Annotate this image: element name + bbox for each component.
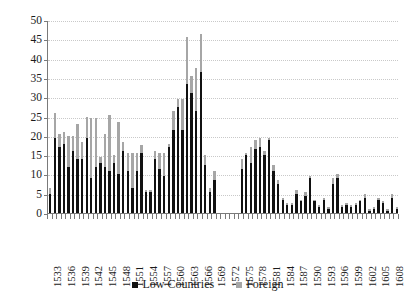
- x-tick-mark: [211, 214, 212, 219]
- x-tick-mark: [102, 214, 103, 219]
- bar-group: [158, 153, 160, 213]
- bar-segment-low-countries: [67, 167, 69, 213]
- bar-group: [263, 151, 265, 213]
- bar-group: [76, 124, 78, 213]
- x-tick-mark: [248, 214, 249, 219]
- x-tick-mark: [275, 214, 276, 219]
- bar-segment-low-countries: [113, 163, 115, 213]
- bar-segment-low-countries: [131, 188, 133, 213]
- bar-segment-foreign: [95, 118, 97, 166]
- bar-segment-low-countries: [90, 178, 92, 213]
- bar-segment-low-countries: [327, 209, 329, 213]
- bar-group: [108, 115, 110, 213]
- bar-group: [350, 205, 352, 213]
- bar-segment-low-countries: [49, 194, 51, 213]
- x-tick-mark: [61, 214, 62, 219]
- x-tick-mark: [147, 214, 148, 219]
- x-tick-mark: [97, 214, 98, 219]
- bar-segment-low-countries: [300, 201, 302, 213]
- bar-segment-low-countries: [190, 93, 192, 213]
- x-tick-mark: [93, 214, 94, 219]
- bar-group: [304, 192, 306, 213]
- bar-segment-foreign: [140, 145, 142, 153]
- y-tick-label: 15: [31, 150, 43, 162]
- x-tick-mark: [366, 214, 367, 219]
- bar-segment-low-countries: [295, 194, 297, 213]
- bar-group: [149, 190, 151, 213]
- x-tick-mark: [362, 214, 363, 219]
- x-tick-mark: [65, 214, 66, 219]
- bar-segment-low-countries: [245, 155, 247, 213]
- bar-group: [272, 165, 274, 213]
- bar-group: [99, 157, 101, 213]
- bar-group: [286, 203, 288, 213]
- bar-segment-low-countries: [99, 163, 101, 213]
- plot-area: [47, 21, 398, 214]
- bar-segment-foreign: [250, 147, 252, 162]
- bar-group: [154, 151, 156, 213]
- x-tick-mark: [293, 214, 294, 219]
- bar-group: [86, 117, 88, 214]
- x-tick-mark: [330, 214, 331, 219]
- bar-segment-low-countries: [259, 147, 261, 213]
- bar-segment-low-countries: [145, 192, 147, 213]
- x-tick-mark: [202, 214, 203, 219]
- stacked-bar-chart: 05101520253035404550 1533153615391542154…: [0, 0, 416, 305]
- bar-group: [54, 113, 56, 213]
- bar-segment-low-countries: [268, 140, 270, 213]
- x-tick-mark: [357, 214, 358, 219]
- x-tick-mark: [79, 214, 80, 219]
- bar-segment-low-countries: [76, 159, 78, 213]
- bar-group: [81, 142, 83, 213]
- bar-segment-low-countries: [345, 205, 347, 213]
- x-tick-mark: [289, 214, 290, 219]
- bar-segment-foreign: [195, 68, 197, 110]
- bar-segment-low-countries: [195, 111, 197, 213]
- bar-segment-foreign: [131, 153, 133, 188]
- x-tick-mark: [115, 214, 116, 219]
- bar-segment-foreign: [213, 171, 215, 181]
- y-axis-labels: 05101520253035404550: [0, 21, 42, 214]
- bar-segment-low-countries: [254, 149, 256, 213]
- bar-group: [200, 34, 202, 213]
- bar-group: [204, 155, 206, 213]
- legend-item-foreign: Foreign: [236, 277, 283, 292]
- x-tick-mark: [88, 214, 89, 219]
- x-tick-mark: [120, 214, 121, 219]
- bar-segment-foreign: [72, 136, 74, 151]
- x-tick-mark: [321, 214, 322, 219]
- bar-segment-low-countries: [108, 171, 110, 213]
- bar-group: [241, 159, 243, 213]
- x-tick-mark: [325, 214, 326, 219]
- bar-group: [104, 134, 106, 213]
- x-tick-mark: [179, 214, 180, 219]
- x-tick-mark: [124, 214, 125, 219]
- bar-segment-foreign: [90, 118, 92, 178]
- bar-segment-foreign: [177, 99, 179, 107]
- bar-segment-low-countries: [213, 180, 215, 213]
- x-tick-mark: [393, 214, 394, 219]
- bar-segment-foreign: [113, 155, 115, 163]
- bar-segment-foreign: [76, 124, 78, 159]
- bar-group: [368, 209, 370, 213]
- bar-group: [63, 132, 65, 213]
- x-tick-mark: [197, 214, 198, 219]
- bar-group: [282, 198, 284, 213]
- bar-segment-low-countries: [396, 209, 398, 213]
- bar-segment-low-countries: [291, 205, 293, 213]
- chart-legend: Low Countries Foreign: [0, 277, 416, 292]
- bar-group: [345, 203, 347, 213]
- bar-group: [122, 142, 124, 213]
- legend-swatch-low-countries: [132, 282, 138, 288]
- y-tick-label: 20: [31, 131, 43, 143]
- bar-segment-low-countries: [309, 178, 311, 213]
- bar-segment-low-countries: [272, 171, 274, 213]
- bar-segment-low-countries: [277, 184, 279, 213]
- bar-segment-low-countries: [127, 171, 129, 213]
- x-tick-mark: [175, 214, 176, 219]
- bar-segment-foreign: [58, 134, 60, 148]
- bar-segment-foreign: [122, 142, 124, 152]
- bar-segment-low-countries: [168, 147, 170, 213]
- bar-segment-low-countries: [158, 169, 160, 213]
- x-tick-mark: [334, 214, 335, 219]
